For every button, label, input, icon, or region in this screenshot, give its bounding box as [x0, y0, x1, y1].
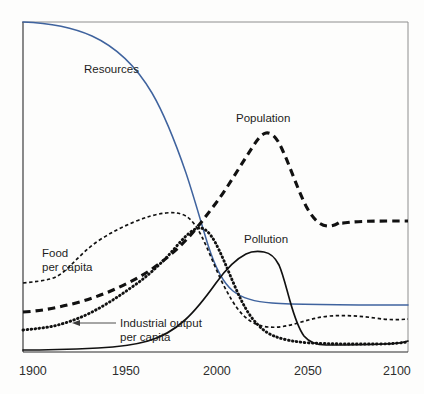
x-tick-2050: 2050	[294, 364, 322, 378]
label-resources: Resources	[84, 63, 139, 75]
x-tick-1950: 1950	[112, 364, 140, 378]
label-food-line2: per capita	[42, 261, 93, 273]
x-tick-2000: 2000	[203, 364, 231, 378]
label-food-line1: Food	[42, 247, 68, 259]
x-tick-1900: 1900	[19, 364, 47, 378]
label-industrial-line2: per capita	[120, 331, 171, 343]
chart-background	[0, 0, 424, 394]
chart-canvas: Resources Population Pollution Food per …	[0, 0, 424, 394]
world3-limits-to-growth-chart: Resources Population Pollution Food per …	[0, 0, 424, 394]
x-tick-2100: 2100	[383, 364, 411, 378]
label-pollution: Pollution	[244, 233, 288, 245]
label-industrial-line1: Industrial output	[120, 317, 203, 329]
label-population: Population	[236, 112, 290, 124]
